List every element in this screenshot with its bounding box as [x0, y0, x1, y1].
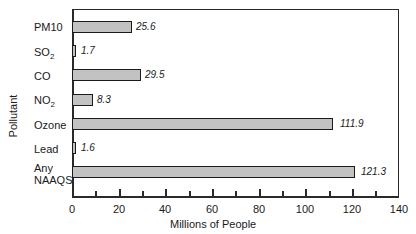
x-tick-120: [352, 189, 354, 196]
bar-pm10: [72, 21, 132, 33]
x-tick-0: [72, 189, 74, 196]
x-tick-130: [375, 191, 377, 196]
x-tick-label-120: 120: [337, 203, 367, 215]
value-label-pm10: 25.6: [136, 21, 155, 33]
category-label-any-naaqs-line1: Any: [34, 162, 53, 174]
x-tick-label-60: 60: [197, 203, 227, 215]
bar-lead: [72, 142, 76, 154]
so2-sub: 2: [50, 52, 54, 61]
x-tick-90: [282, 191, 284, 196]
no2-sub: 2: [51, 100, 55, 109]
x-tick-110: [329, 191, 331, 196]
bar-ozone: [72, 118, 333, 130]
category-label-co: CO: [34, 70, 51, 82]
category-label-ozone: Ozone: [34, 119, 66, 131]
category-label-no2: NO2: [34, 94, 55, 111]
x-tick-10: [95, 191, 97, 196]
category-label-lead: Lead: [34, 143, 58, 155]
x-tick-50: [189, 191, 191, 196]
x-tick-label-140: 140: [384, 203, 414, 215]
x-tick-label-0: 0: [57, 203, 87, 215]
bar-no2: [72, 94, 93, 106]
value-label-lead: 1.6: [81, 142, 95, 154]
so2-main: SO: [34, 46, 50, 58]
value-label-co: 29.5: [145, 69, 164, 81]
x-tick-label-40: 40: [150, 203, 180, 215]
value-label-so2: 1.7: [81, 45, 95, 57]
x-tick-20: [119, 189, 121, 196]
x-tick-label-20: 20: [104, 203, 134, 215]
bar-so2: [72, 45, 76, 57]
no2-main: NO: [34, 94, 51, 106]
y-axis-label: Pollutant: [7, 91, 19, 141]
x-tick-100: [305, 189, 307, 196]
category-label-so2: SO2: [34, 46, 54, 63]
bar-co: [72, 69, 141, 81]
x-tick-30: [142, 191, 144, 196]
x-tick-80: [259, 189, 261, 196]
x-axis-label: Millions of People: [170, 218, 256, 230]
x-tick-60: [212, 189, 214, 196]
category-label-any-naaqs-line2: NAAQS: [34, 174, 73, 186]
x-tick-40: [165, 189, 167, 196]
category-label-pm10: PM10: [34, 21, 63, 33]
bar-any-naaqs: [72, 166, 355, 178]
x-tick-label-100: 100: [290, 203, 320, 215]
value-label-no2: 8.3: [97, 94, 111, 106]
x-tick-label-80: 80: [244, 203, 274, 215]
value-label-ozone: 111.9: [340, 118, 364, 130]
value-label-any-naaqs: 121.3: [361, 166, 386, 178]
x-tick-70: [235, 191, 237, 196]
